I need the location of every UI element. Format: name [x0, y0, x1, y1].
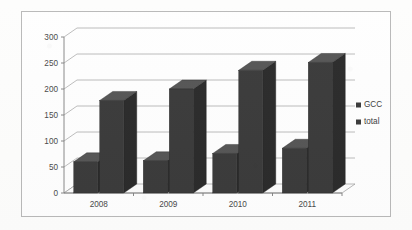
- y-tick-label: 250: [44, 59, 58, 68]
- bar-front-face: [74, 162, 98, 193]
- y-tick-label: 200: [44, 85, 58, 94]
- bar-total-2009: [169, 80, 206, 193]
- bar-front-face: [100, 100, 124, 193]
- y-tick-label: 100: [44, 137, 58, 146]
- bar-group: [74, 53, 346, 193]
- depth-connector: [64, 54, 77, 63]
- bar-front-face: [169, 89, 193, 193]
- x-tick-label: 2009: [159, 200, 178, 209]
- x-tick-label-group: 2008200920102011: [90, 200, 317, 209]
- bar-side-face: [332, 53, 345, 193]
- depth-connector: [64, 106, 77, 115]
- y-tick-label: 150: [44, 111, 58, 120]
- bar-total-2010: [239, 61, 276, 193]
- bar-side-face: [124, 91, 137, 193]
- x-tick-label: 2010: [229, 200, 248, 209]
- legend-label-gcc: GCC: [364, 100, 382, 109]
- chart-frame: 050100150200250300 2008200920102011 GCCt…: [21, 11, 391, 217]
- x-tick-label: 2011: [298, 200, 316, 209]
- value-axis: [61, 37, 64, 193]
- bar-front-face: [239, 70, 263, 193]
- bar-total-2011: [308, 53, 345, 193]
- y-tick-label: 0: [53, 189, 58, 198]
- bar-front-face: [308, 62, 332, 193]
- bar-side-face: [193, 80, 206, 193]
- bar-front-face: [143, 161, 167, 193]
- legend-label-total: total: [364, 117, 380, 126]
- bar-chart: 050100150200250300 2008200920102011 GCCt…: [22, 12, 390, 216]
- page-canvas: 050100150200250300 2008200920102011 GCCt…: [0, 0, 412, 230]
- bar-front-face: [213, 153, 237, 193]
- legend-square-marker: [356, 103, 361, 108]
- bar-front-face: [282, 148, 306, 193]
- y-tick-label: 50: [49, 163, 59, 172]
- chart-legend: GCCtotal: [356, 100, 382, 126]
- legend-square-marker: [356, 120, 361, 125]
- bar-total-2008: [100, 91, 137, 193]
- bar-side-face: [263, 61, 276, 193]
- x-tick-label: 2008: [90, 200, 109, 209]
- depth-connector: [64, 80, 77, 89]
- depth-connector: [64, 28, 77, 37]
- depth-connector: [64, 132, 77, 141]
- category-axis: [64, 193, 342, 196]
- y-tick-label-group: 050100150200250300: [44, 33, 58, 198]
- y-tick-label: 300: [44, 33, 58, 42]
